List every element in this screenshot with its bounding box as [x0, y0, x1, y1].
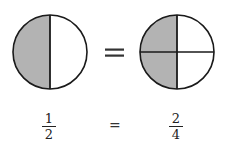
denominator: 2	[39, 128, 59, 141]
denominator: 4	[166, 128, 186, 141]
numerator: 1	[39, 112, 59, 125]
shaded-half	[13, 15, 50, 89]
numerator: 2	[166, 112, 186, 125]
fraction-two-quarters: 2 4	[166, 112, 186, 141]
equals-sign-large	[105, 49, 124, 57]
fraction-one-half: 1 2	[39, 112, 59, 141]
circle-two-quarters	[140, 15, 214, 89]
circle-one-half	[13, 15, 87, 89]
equals-sign-small: =	[109, 117, 121, 133]
